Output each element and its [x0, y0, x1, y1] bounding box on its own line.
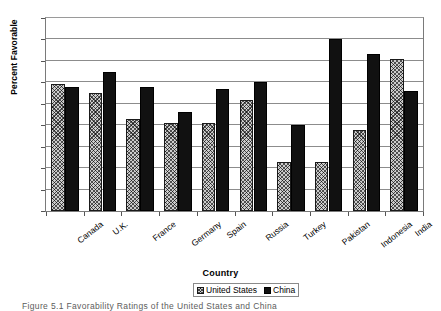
x-tick-mark [84, 212, 85, 216]
x-tick-mark [46, 212, 47, 216]
bar-group [348, 18, 386, 211]
x-tick-label-india: India [413, 219, 434, 238]
figure-caption: Figure 5.1 Favorability Ratings of the U… [22, 301, 422, 311]
legend-entry: United States [197, 286, 257, 295]
bar [329, 39, 343, 211]
x-tick-mark [310, 212, 311, 216]
bar [390, 59, 404, 211]
legend-swatch-icon [264, 287, 271, 294]
bar-group [197, 18, 235, 211]
bar-group [385, 18, 423, 211]
x-tick-label-indonesia: Indonesia [379, 219, 414, 250]
x-tick-label-france: France [150, 219, 177, 243]
x-tick-label-u-k: U.K. [111, 219, 130, 237]
chart-legend: United StatesChina [193, 283, 299, 297]
bar-group [84, 18, 122, 211]
bar [164, 123, 178, 211]
x-tick-label-germany: Germany [190, 219, 224, 248]
x-tick-label-turkey: Turkey [301, 219, 327, 243]
bar [353, 130, 367, 211]
bar [103, 72, 117, 211]
bar [277, 162, 291, 211]
bar [254, 82, 268, 211]
bar-group [310, 18, 348, 211]
bar-group [159, 18, 197, 211]
legend-swatch-icon [197, 287, 204, 294]
y-axis-title: Percent Favorable [9, 0, 19, 122]
x-tick-mark [348, 212, 349, 216]
legend-label: China [273, 286, 295, 295]
x-tick-mark [235, 212, 236, 216]
favorability-bar-chart-figure: Percent Favorable 9080706050403020100 Ca… [0, 0, 441, 311]
x-tick-mark [159, 212, 160, 216]
x-tick-mark [423, 212, 424, 216]
x-tick-mark [272, 212, 273, 216]
bar [291, 125, 305, 211]
bars-layer [46, 18, 423, 211]
bar [178, 112, 192, 211]
x-tick-mark [121, 212, 122, 216]
bar-group [121, 18, 159, 211]
bar [89, 93, 103, 211]
bar [140, 87, 154, 211]
legend-entry: China [264, 286, 295, 295]
bar-group [235, 18, 273, 211]
bar [315, 162, 329, 211]
bar [240, 100, 254, 212]
x-tick-label-russia: Russia [263, 219, 290, 243]
bar [202, 123, 216, 211]
bar [126, 119, 140, 211]
bar [404, 91, 418, 211]
bar-group [46, 18, 84, 211]
bar [367, 54, 381, 211]
x-axis-title: Country [0, 268, 441, 278]
bar-group [272, 18, 310, 211]
x-tick-label-canada: Canada [76, 219, 106, 245]
x-tick-label-spain: Spain [225, 219, 248, 240]
bar [51, 84, 65, 211]
x-tick-label-pakistan: Pakistan [340, 219, 372, 247]
x-tick-mark [385, 212, 386, 216]
legend-label: United States [206, 286, 257, 295]
bar [65, 87, 79, 211]
bar [216, 89, 230, 211]
x-tick-mark [197, 212, 198, 216]
